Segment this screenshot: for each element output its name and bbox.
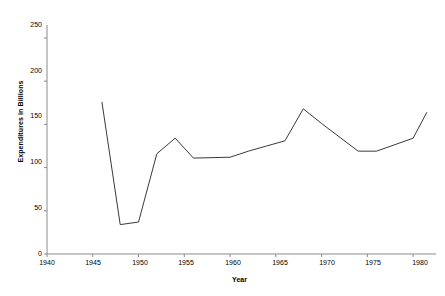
data-series-line [102,102,427,225]
line-chart: Expenditures in Billions 250 200 150 100… [0,0,445,296]
plot-area [0,0,445,296]
